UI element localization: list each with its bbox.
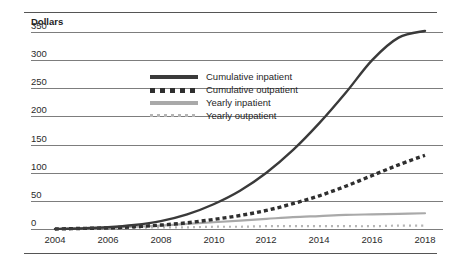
legend-label-yearly-inpatient: Yearly inpatient (206, 96, 271, 109)
legend-item-yearly-inpatient: Yearly inpatient (150, 96, 325, 109)
legend-swatch-cumulative-outpatient (150, 88, 198, 93)
series-line (55, 31, 425, 229)
chart-figure: Dollars 050100150200250300350 2004200620… (0, 0, 461, 268)
legend-label-yearly-outpatient: Yearly outpatient (206, 109, 276, 122)
series-line (55, 155, 425, 229)
legend-swatch-cumulative-inpatient (150, 75, 198, 79)
legend-label-cumulative-inpatient: Cumulative inpatient (206, 70, 292, 83)
chart-legend: Cumulative inpatient Cumulative outpatie… (150, 70, 325, 122)
plot-area: 050100150200250300350 200420062008201020… (0, 0, 461, 268)
legend-swatch-yearly-outpatient (150, 114, 198, 117)
legend-label-cumulative-outpatient: Cumulative outpatient (206, 83, 298, 96)
series-lines (0, 0, 461, 268)
legend-swatch-yearly-inpatient (150, 101, 198, 105)
legend-item-cumulative-inpatient: Cumulative inpatient (150, 70, 325, 83)
legend-item-yearly-outpatient: Yearly outpatient (150, 109, 325, 122)
legend-item-cumulative-outpatient: Cumulative outpatient (150, 83, 325, 96)
